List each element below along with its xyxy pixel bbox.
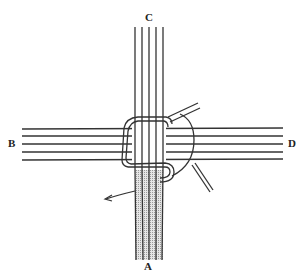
- strands-c: [135, 27, 163, 118]
- strands-a: [135, 168, 163, 260]
- label-c: C: [145, 11, 153, 23]
- knot-diagram: [0, 0, 300, 273]
- label-b: B: [8, 137, 15, 149]
- arrow-strand: [105, 191, 135, 201]
- label-a: A: [144, 260, 152, 272]
- label-d: D: [288, 137, 296, 149]
